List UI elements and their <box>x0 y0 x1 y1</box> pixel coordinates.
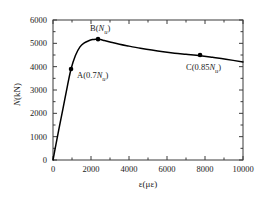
y-tick-label: 5000 <box>10 39 47 48</box>
x-axis-title: ε(με) <box>139 180 157 189</box>
marker-point-a <box>69 67 74 72</box>
x-tick-label: 4000 <box>121 165 138 174</box>
plot-frame <box>53 20 243 160</box>
y-tick-label: 1000 <box>10 132 47 141</box>
x-tick-label: 0 <box>51 165 55 174</box>
x-tick-label: 2000 <box>83 165 100 174</box>
marker-point-c <box>198 53 203 58</box>
x-tick-label: 8000 <box>197 165 214 174</box>
point-label-a: A(0.7Nu) <box>77 71 108 82</box>
chart-figure: 0100020003000400050006000 02000400060008… <box>0 0 262 198</box>
point-label-c: C(0.85Nu) <box>186 63 221 74</box>
y-tick-label: 0 <box>10 156 47 165</box>
y-tick-label: 6000 <box>10 16 47 25</box>
marker-point-b <box>96 37 101 42</box>
point-label-b: B(Nu) <box>90 24 110 35</box>
y-axis-title: N(kN) <box>13 65 22 125</box>
x-tick-label: 10000 <box>232 165 253 174</box>
x-tick-label: 6000 <box>159 165 176 174</box>
